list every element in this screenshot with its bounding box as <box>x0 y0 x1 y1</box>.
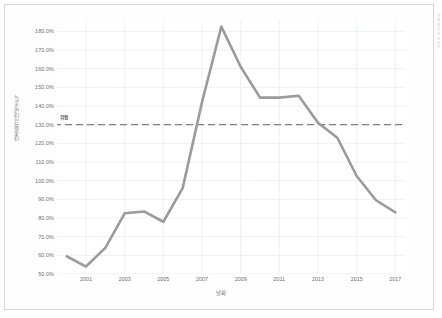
y-axis-tick-label: 120.0% <box>35 140 54 146</box>
x-axis-tick-label: 2017 <box>389 276 401 282</box>
x-axis-tick-label: 2005 <box>157 276 169 282</box>
x-axis-tick-labels: 200120032005200720092011201320152017 <box>57 276 405 288</box>
y-axis-title: 대출원금 대비소득 <box>13 96 25 141</box>
y-axis-tick-label: 70.0% <box>38 234 54 240</box>
side-caption-text: 대출원금 대비소득 <box>434 14 441 134</box>
x-axis-tick-label: 2003 <box>119 276 131 282</box>
data-series-line <box>57 22 405 274</box>
y-axis-tick-label: 140.0% <box>35 103 54 109</box>
x-axis-tick-label: 2015 <box>351 276 363 282</box>
y-axis-tick-label: 100.0% <box>35 178 54 184</box>
y-axis-tick-label: 60.0% <box>38 252 54 258</box>
threshold-annotation-label: 위험 <box>60 114 68 120</box>
x-axis-title: 날짜 <box>0 289 442 297</box>
y-axis-tick-label: 160.0% <box>35 66 54 72</box>
chart-figure: 50.0%60.0%70.0%80.0%90.0%100.0%110.0%120… <box>0 0 442 318</box>
x-axis-tick-label: 2009 <box>235 276 247 282</box>
y-axis-tick-label: 90.0% <box>38 196 54 202</box>
y-axis-tick-label: 170.0% <box>35 47 54 53</box>
plot-area <box>57 22 405 274</box>
x-axis-tick-label: 2013 <box>312 276 324 282</box>
y-axis-tick-labels: 50.0%60.0%70.0%80.0%90.0%100.0%110.0%120… <box>20 22 54 274</box>
y-axis-tick-label: 150.0% <box>35 84 54 90</box>
y-axis-tick-label: 50.0% <box>38 271 54 277</box>
y-axis-tick-label: 80.0% <box>38 215 54 221</box>
y-axis-tick-label: 130.0% <box>35 122 54 128</box>
x-axis-tick-label: 2001 <box>80 276 92 282</box>
x-axis-tick-label: 2007 <box>196 276 208 282</box>
y-axis-tick-label: 110.0% <box>36 159 54 165</box>
y-axis-tick-label: 180.0% <box>35 28 54 34</box>
x-axis-tick-label: 2011 <box>274 276 286 282</box>
